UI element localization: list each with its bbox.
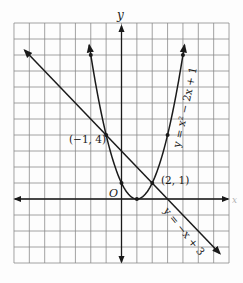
axes [15, 26, 228, 262]
x-axis-label: x [232, 195, 237, 205]
labels: y x O (−1, 4) (2, 1) y = x² − 2x + 1 y =… [69, 8, 237, 258]
point-label-2-1: (2, 1) [161, 174, 189, 186]
coordinate-plane: y x O (−1, 4) (2, 1) y = x² − 2x + 1 y =… [0, 0, 243, 283]
point-marker [120, 181, 124, 185]
point-marker [166, 133, 170, 137]
origin-label: O [109, 187, 118, 200]
parabola-equation-label: y = x² − 2x + 1 [170, 66, 199, 149]
point-marker [89, 53, 93, 57]
point-label-neg1-4: (−1, 4) [69, 133, 106, 145]
graph-figure: y x O (−1, 4) (2, 1) y = x² − 2x + 1 y =… [0, 0, 243, 283]
y-axis-label: y [116, 8, 124, 22]
point-marker [135, 197, 139, 201]
point-marker [181, 53, 185, 57]
